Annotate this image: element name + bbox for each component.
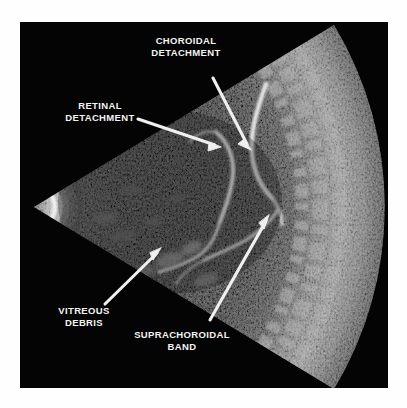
figure-root: CHOROIDAL DETACHMENT RETINAL DETACHMENT … bbox=[0, 0, 407, 408]
ultrasound-scan-panel: CHOROIDAL DETACHMENT RETINAL DETACHMENT … bbox=[20, 22, 388, 388]
label-suprachoroidal-band: SUPRACHOROIDAL BAND bbox=[112, 329, 252, 352]
label-retinal-detachment: RETINAL DETACHMENT bbox=[40, 100, 160, 123]
label-choroidal-detachment: CHOROIDAL DETACHMENT bbox=[126, 35, 246, 58]
label-vitreous-debris: VITREOUS DEBRIS bbox=[24, 305, 144, 328]
